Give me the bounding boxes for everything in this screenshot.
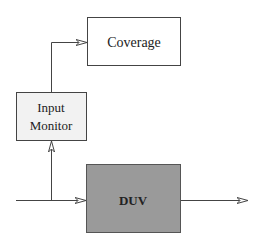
duv-label: DUV [119, 193, 148, 208]
coverage-node: Coverage [88, 18, 181, 66]
input-monitor-label-line2: Monitor [30, 118, 73, 133]
duv-node: DUV [87, 165, 181, 233]
input-monitor-label-line1: Input [37, 100, 65, 115]
block-diagram: Coverage Input Monitor DUV [0, 0, 260, 249]
input-monitor-node: Input Monitor [17, 93, 87, 141]
coverage-label: Coverage [107, 35, 161, 50]
monitor-to-coverage-arrow [52, 43, 88, 93]
